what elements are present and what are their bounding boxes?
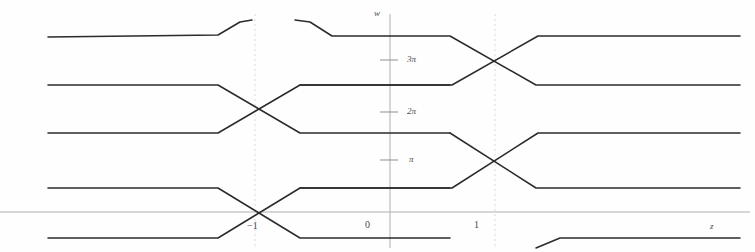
- tick-label-pi: π: [409, 155, 414, 164]
- tick-label-3pi: 3π: [407, 55, 416, 64]
- tick-label-zero: 0: [365, 220, 370, 230]
- tick-label-2pi: 2π: [407, 107, 416, 116]
- tick-label-minus-one: −1: [247, 221, 258, 231]
- plot-svg: [0, 0, 755, 252]
- tick-label-one: 1: [474, 220, 479, 230]
- axis-label-w: w: [374, 9, 380, 18]
- plot-background: [0, 0, 755, 252]
- axis-label-z: z: [710, 222, 714, 231]
- figure-container: w z 3π 2π π −1 0 1: [0, 0, 755, 252]
